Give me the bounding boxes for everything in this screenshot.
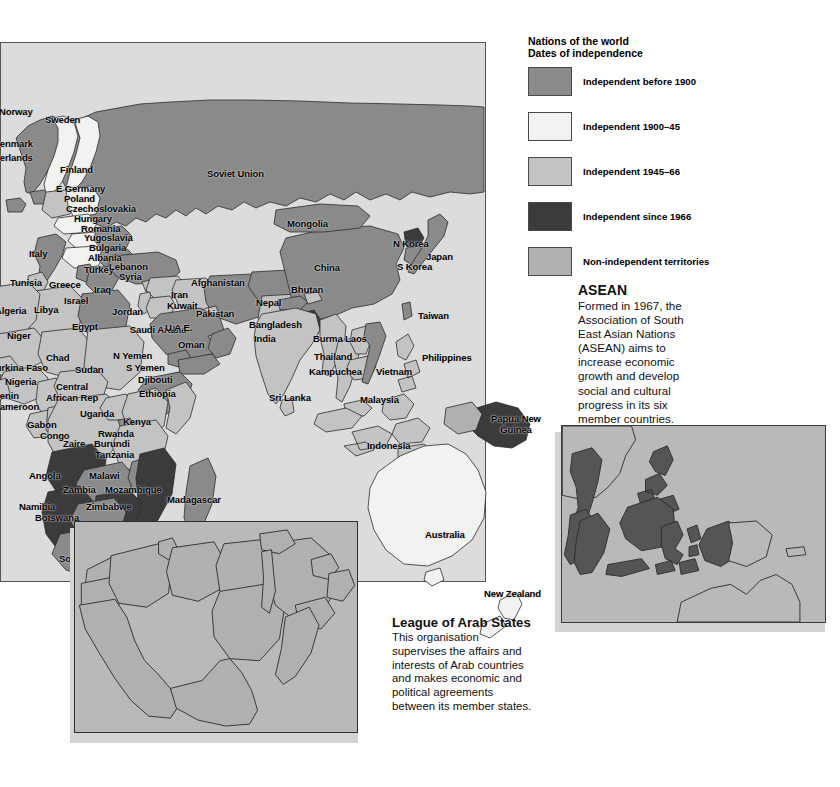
country-tasmania (424, 568, 444, 586)
legend-rows: Independent before 1900Independent 1900–… (528, 67, 828, 292)
asean-inset-map (561, 425, 826, 623)
asean-heading: ASEAN (578, 282, 710, 298)
asean-inset-graphic (562, 426, 825, 622)
country-n-korea (404, 228, 424, 248)
inset-sulawesi (661, 521, 683, 565)
arab-heading: League of Arab States (392, 615, 534, 630)
inset-sumatra (574, 513, 610, 574)
legend-swatch-1945-66 (528, 157, 572, 186)
legend-label: Non-independent territories (583, 256, 709, 267)
arab-libya (166, 542, 223, 601)
asean-text-block: ASEAN Formed in 1967, the Association of… (578, 282, 710, 426)
country-czechoslovakia (54, 214, 98, 234)
country-netherlands (6, 198, 26, 212)
legend-swatch-non-independent (528, 247, 572, 276)
inset-maluku (687, 525, 701, 557)
country-philippines (396, 334, 420, 392)
legend-row: Independent since 1966 (528, 202, 828, 247)
world-map-graphic (0, 42, 486, 582)
country-mongolia (274, 204, 370, 232)
league-of-arab-states-inset-map (74, 521, 358, 733)
arab-west-africa-lower (170, 659, 257, 726)
legend-title-line2: Dates of independence (528, 48, 828, 60)
legend-row: Independent before 1900 (528, 67, 828, 112)
map-legend: Nations of the world Dates of independen… (528, 36, 828, 292)
inset-png (729, 521, 773, 567)
legend-title-line1: Nations of the world (528, 36, 828, 48)
country-india (254, 308, 320, 404)
country-poland (66, 186, 100, 218)
country-somalia (166, 382, 196, 434)
legend-label: Independent since 1966 (583, 211, 691, 222)
arab-oman (327, 570, 355, 602)
legend-label: Independent 1945–66 (583, 166, 680, 177)
arab-body: This organisation supervises the affairs… (392, 631, 534, 714)
arab-western-sahara-sw (79, 599, 178, 718)
inset-java (606, 559, 650, 577)
legend-label: Independent 1900–45 (583, 121, 680, 132)
legend-title: Nations of the world Dates of independen… (528, 36, 828, 59)
world-map: NorwaySwedenDenmarkNetherlandsFinlandE G… (0, 42, 486, 582)
asean-body: Formed in 1967, the Association of South… (578, 299, 710, 426)
legend-swatch-since-1966 (528, 202, 572, 231)
country-romania (94, 226, 132, 250)
country-sri-lanka (280, 398, 294, 416)
legend-label: Independent before 1900 (583, 76, 696, 87)
country-soviet-union (56, 100, 484, 228)
country-taiwan (402, 302, 412, 320)
legend-row: Independent 1945–66 (528, 157, 828, 202)
legend-swatch-before-1900 (528, 67, 572, 96)
inset-australia-top (677, 574, 800, 622)
country-australia (368, 444, 486, 566)
inset-small-island (786, 547, 806, 557)
league-of-arab-states-text-block: League of Arab States This organisation … (392, 615, 534, 714)
legend-swatch-1900-45 (528, 112, 572, 141)
country-irian-jaya (444, 402, 482, 434)
legend-row: Independent 1900–45 (528, 112, 828, 157)
arab-inset-graphic (75, 522, 357, 732)
